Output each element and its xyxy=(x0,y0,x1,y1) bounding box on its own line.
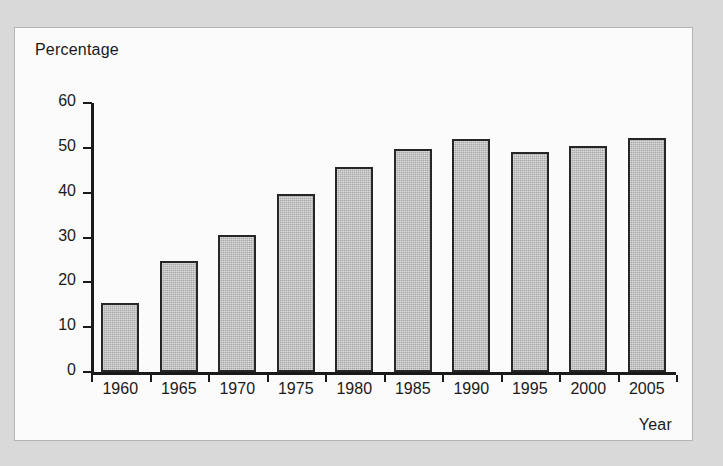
bar-1960 xyxy=(101,303,139,372)
y-tick-label: 60 xyxy=(58,92,76,110)
bar-chart: Percentage Year 0102030405060 1960196519… xyxy=(15,28,694,442)
bar-1980 xyxy=(335,167,373,372)
x-axis-label-1985: 1985 xyxy=(384,380,443,398)
bar-1985 xyxy=(394,149,432,372)
scanned-page: Percentage Year 0102030405060 1960196519… xyxy=(0,0,723,466)
y-tick-60: 60 xyxy=(83,102,92,104)
bar-2005 xyxy=(628,138,666,372)
bar-2000 xyxy=(569,146,607,372)
bar-1990 xyxy=(452,139,490,372)
x-axis-label-1990: 1990 xyxy=(442,380,501,398)
x-axis-label-1980: 1980 xyxy=(325,380,384,398)
y-tick-label: 0 xyxy=(67,361,76,379)
x-axis-label-1995: 1995 xyxy=(501,380,560,398)
y-tick-50: 50 xyxy=(83,147,92,149)
y-tick-label: 20 xyxy=(58,271,76,289)
x-axis-label-2005: 2005 xyxy=(618,380,677,398)
bar-1975 xyxy=(277,194,315,372)
bar-1965 xyxy=(160,261,198,372)
y-tick-40: 40 xyxy=(83,192,92,194)
figure-panel: Percentage Year 0102030405060 1960196519… xyxy=(14,27,693,441)
y-tick-20: 20 xyxy=(83,281,92,283)
x-axis-title: Year xyxy=(639,416,672,434)
y-tick-30: 30 xyxy=(83,237,92,239)
y-tick-0: 0 xyxy=(83,371,92,373)
x-axis-label-1975: 1975 xyxy=(267,380,326,398)
y-axis-line xyxy=(91,103,94,374)
y-axis-title: Percentage xyxy=(35,41,119,59)
bar-1970 xyxy=(218,235,256,372)
y-tick-label: 40 xyxy=(58,182,76,200)
x-tick-end xyxy=(676,375,678,382)
x-axis-label-2000: 2000 xyxy=(559,380,618,398)
y-tick-10: 10 xyxy=(83,326,92,328)
y-tick-label: 50 xyxy=(58,137,76,155)
bar-1995 xyxy=(511,152,549,372)
x-axis-label-1965: 1965 xyxy=(150,380,209,398)
x-axis-label-1960: 1960 xyxy=(91,380,150,398)
y-tick-label: 30 xyxy=(58,227,76,245)
x-axis-label-1970: 1970 xyxy=(208,380,267,398)
y-tick-label: 10 xyxy=(58,316,76,334)
